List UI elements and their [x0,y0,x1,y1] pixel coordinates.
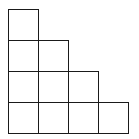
grid-square-r3-c1 [8,71,39,103]
grid-square-r2-c1 [8,40,39,72]
grid-square-r1-c1 [8,9,39,41]
staircase-diagram [0,0,139,139]
grid-square-r4-c4 [98,102,129,134]
grid-square-r4-c2 [38,102,69,134]
grid-square-r3-c2 [38,71,69,103]
grid-square-r4-c3 [68,102,99,134]
grid-square-r2-c2 [38,40,69,72]
grid-square-r4-c1 [8,102,39,134]
grid-square-r3-c3 [68,71,99,103]
